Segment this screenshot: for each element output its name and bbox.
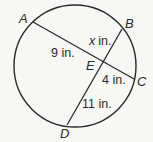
segment-ec-label: 4 in. xyxy=(102,73,126,87)
chords-diagram: A B C D E 9 in. xin. 4 in. 11 in. xyxy=(0,0,153,142)
segment-eb-variable: x xyxy=(88,34,96,48)
point-a-label: A xyxy=(18,11,28,26)
circle xyxy=(14,5,136,127)
point-d-label: D xyxy=(60,126,69,141)
point-b-label: B xyxy=(125,16,134,31)
chord-ac xyxy=(33,22,134,79)
point-c-label: C xyxy=(137,74,147,89)
segment-ae-label: 9 in. xyxy=(51,46,75,60)
segment-ed-label: 11 in. xyxy=(82,97,112,111)
segment-eb-label: xin. xyxy=(88,34,111,48)
segment-eb-unit: in. xyxy=(98,34,111,48)
point-e-label: E xyxy=(86,58,95,73)
